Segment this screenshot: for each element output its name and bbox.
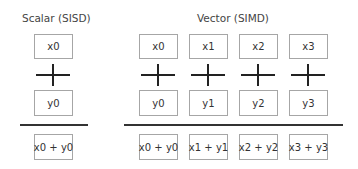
vector-result-box: x2 + y2 (239, 134, 278, 160)
scalar-result-box: x0 + y0 (34, 134, 73, 160)
plus-icon (289, 64, 327, 86)
vector-x-operand-box: x1 (189, 34, 228, 59)
plus-icon (139, 64, 177, 86)
vector-x-operand-box: x0 (139, 34, 178, 59)
plus-icon (34, 64, 72, 86)
plus-icon (239, 64, 277, 86)
scalar-sum-rule (20, 124, 88, 126)
vector-result-box: x1 + y1 (189, 134, 228, 160)
vector-title: Vector (SIMD) (197, 12, 269, 24)
vector-y-operand-box: y1 (189, 90, 228, 116)
scalar-y-operand-box: y0 (34, 90, 73, 116)
vector-sum-rule (124, 124, 343, 126)
vector-y-operand-box: y0 (139, 90, 178, 116)
vector-x-operand-box: x2 (239, 34, 278, 59)
vector-x-operand-box: x3 (289, 34, 328, 59)
scalar-x-operand-box: x0 (34, 34, 73, 59)
plus-icon (189, 64, 227, 86)
scalar-title: Scalar (SISD) (22, 12, 91, 24)
vector-y-operand-box: y2 (239, 90, 278, 116)
vector-y-operand-box: y3 (289, 90, 328, 116)
vector-result-box: x3 + y3 (289, 134, 328, 160)
vector-result-box: x0 + y0 (139, 134, 178, 160)
